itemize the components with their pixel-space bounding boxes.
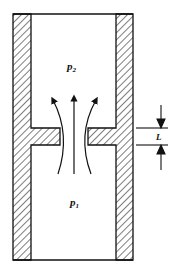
thickness-dimension xyxy=(136,105,168,170)
upper-pressure-label: p2 xyxy=(66,60,77,74)
thickness-label: L xyxy=(155,132,162,142)
lower-pressure-label: p1 xyxy=(69,196,79,210)
orifice-diagram: p2 p1 L xyxy=(0,0,173,270)
left-wall xyxy=(13,14,60,260)
right-wall xyxy=(88,14,133,260)
